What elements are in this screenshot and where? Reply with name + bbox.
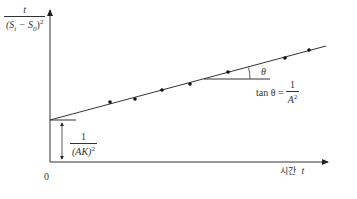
slope-label: tan θ = 1 A2	[256, 79, 299, 105]
angle-arc	[249, 68, 251, 80]
y-label-denominator: (Si − S0)2	[4, 16, 45, 33]
intercept-label: 1 (AK)2	[70, 131, 97, 157]
y-label-numerator: t	[21, 4, 28, 16]
x-axis-label: 시간 t	[280, 166, 304, 176]
y-axis-label: t (Si − S0)2	[4, 4, 45, 33]
intercept-numerator: 1	[79, 131, 88, 143]
intercept-denominator: (AK)2	[70, 143, 97, 157]
origin-label: 0	[44, 172, 49, 182]
angle-label: θ	[261, 67, 266, 77]
